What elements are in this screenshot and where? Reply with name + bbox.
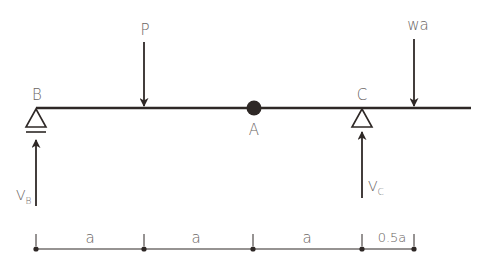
- support-b: [26, 109, 46, 132]
- roller-support-icon: [352, 109, 372, 127]
- label-p: P: [140, 21, 149, 39]
- label-c: C: [357, 86, 367, 104]
- dim-label-3: a: [302, 229, 311, 247]
- dim-label-4: 0.5a: [378, 230, 407, 245]
- pin-support-icon: [26, 109, 46, 127]
- label-vc: VC: [368, 178, 384, 197]
- label-b: B: [32, 86, 42, 104]
- dim-label-1: a: [85, 229, 94, 247]
- label-vb: VB: [16, 187, 32, 206]
- beam-diagram: B P A C wa VB VC a a a 0.5a: [0, 0, 483, 275]
- dim-label-2: a: [191, 229, 200, 247]
- label-wa: wa: [407, 16, 428, 34]
- hinge-a-icon: [247, 101, 262, 116]
- label-a: A: [249, 121, 259, 139]
